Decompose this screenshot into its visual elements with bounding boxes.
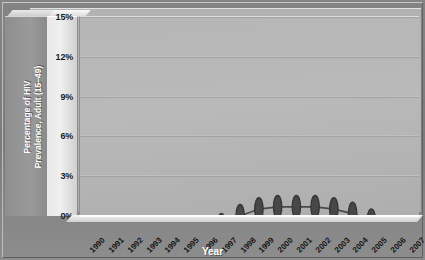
x-axis-title-wrap: Year — [0, 246, 425, 257]
data-series-line — [80, 17, 419, 216]
y-axis-tick-label: 15% — [56, 12, 73, 22]
gridline — [80, 136, 419, 137]
data-point-marker — [292, 195, 300, 216]
x-axis-title: Year — [198, 246, 227, 257]
y-axis-tick-strip: 0%3%6%9%12%15% — [47, 16, 78, 216]
y-axis-tick-label: 12% — [56, 52, 73, 62]
data-point-marker — [273, 195, 281, 216]
gridline — [80, 97, 419, 98]
y-axis-side-wall: Percentage of HIV Prevalence, Adult (15–… — [5, 16, 47, 216]
gridline — [80, 17, 419, 18]
y-axis-tick-label: 3% — [60, 171, 73, 181]
plot-area — [79, 16, 419, 216]
y-axis-tick-label: 6% — [60, 131, 73, 141]
x-axis-tick-labels: 1990199119921993199419951996199719981999… — [79, 214, 419, 242]
gridline — [80, 176, 419, 177]
y-axis-tick-label: 9% — [60, 92, 73, 102]
gridline — [80, 57, 419, 58]
data-point-marker — [311, 195, 319, 216]
y-axis-title: Percentage of HIV Prevalence, Adult (15–… — [22, 27, 44, 207]
chart-container: Percentage of HIV Prevalence, Adult (15–… — [0, 0, 425, 260]
